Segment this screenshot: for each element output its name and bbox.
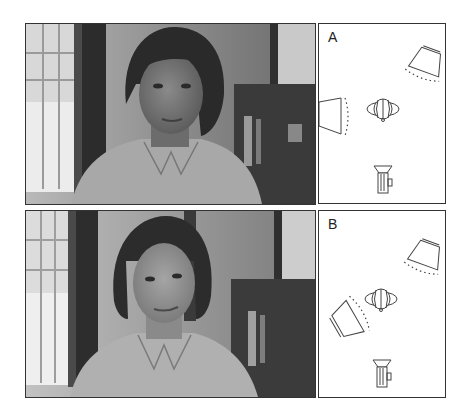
key-light-icon [403,236,447,277]
fill-light-icon [319,98,348,136]
photo-panel-a [25,23,316,205]
subject-head-icon [365,289,397,312]
fill-light-icon [325,294,372,344]
portrait-image-b [26,211,315,397]
camera-icon [374,166,392,193]
key-light-icon [404,43,447,84]
lighting-diagram-b: B [318,210,446,398]
subject-head-icon [367,99,399,122]
camera-icon [373,360,391,387]
photo-panel-b [25,210,316,398]
lighting-diagram-a: A [318,23,446,204]
portrait-image-a [26,24,315,204]
